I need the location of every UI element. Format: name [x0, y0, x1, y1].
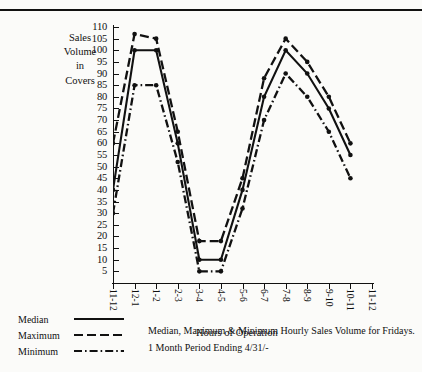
legend-item-median: Median: [18, 311, 126, 327]
data-point-maximum-5: [219, 239, 224, 244]
legend-label-median: Median: [18, 314, 72, 325]
data-point-median-9: [305, 71, 310, 76]
data-point-maximum-2: [154, 36, 159, 41]
data-point-median-10: [327, 106, 332, 111]
legend-swatch-solid-icon: [74, 314, 126, 324]
x-tick-label-2: 1-2: [151, 289, 161, 302]
chart-page: Sales Volume in Covers 51015202530354045…: [0, 0, 422, 372]
data-point-minimum-8: [283, 71, 288, 76]
data-point-median-7: [262, 95, 267, 100]
data-point-minimum-2: [154, 83, 159, 88]
y-tick-label-85: 85: [73, 80, 107, 91]
data-point-median-1: [132, 48, 137, 53]
x-tick-label-4: 3-4: [194, 289, 204, 302]
legend-item-maximum: Maximum: [18, 327, 126, 343]
x-tick-label-10: 9-10: [323, 289, 333, 306]
data-point-maximum-9: [305, 60, 310, 65]
y-tick-label-105: 105: [73, 34, 107, 45]
series-svg: [113, 27, 372, 283]
y-tick-label-50: 50: [73, 162, 107, 173]
data-point-maximum-4: [197, 239, 202, 244]
legend-swatch-dashed-icon: [74, 330, 126, 340]
data-point-median-11: [348, 153, 353, 158]
chart-legend: MedianMaximumMinimum: [18, 311, 126, 359]
x-tick-label-8: 7-8: [280, 289, 290, 302]
data-point-minimum-3: [175, 160, 180, 165]
plot-area: [113, 27, 372, 283]
y-tick-label-35: 35: [73, 197, 107, 208]
data-point-maximum-8: [283, 36, 288, 41]
series-line-maximum: [113, 34, 350, 241]
y-tick-label-55: 55: [73, 150, 107, 161]
y-tick-label-100: 100: [73, 45, 107, 56]
x-tick-label-0: 11-12: [108, 289, 118, 311]
data-point-maximum-1: [132, 32, 137, 37]
data-point-maximum-3: [175, 129, 180, 134]
y-tick-label-10: 10: [73, 255, 107, 266]
data-point-minimum-5: [219, 269, 224, 274]
y-tick-label-30: 30: [73, 208, 107, 219]
x-tick-label-6: 5-6: [237, 289, 247, 302]
chart-caption: Median, Maximum & Minimum Hourly Sales V…: [148, 322, 415, 356]
y-tick-label-15: 15: [73, 243, 107, 254]
y-tick-label-70: 70: [73, 115, 107, 126]
y-tick-label-20: 20: [73, 231, 107, 242]
data-point-median-8: [283, 48, 288, 53]
data-point-maximum-7: [262, 76, 267, 81]
x-tick-label-1: 12-1: [129, 289, 139, 306]
data-point-median-6: [240, 188, 245, 193]
y-tick-label-95: 95: [73, 57, 107, 68]
y-tick-label-40: 40: [73, 185, 107, 196]
data-point-median-5: [219, 257, 224, 262]
data-point-maximum-0: [113, 141, 115, 146]
legend-label-maximum: Maximum: [18, 330, 72, 341]
y-tick-label-65: 65: [73, 127, 107, 138]
x-tick-label-11: 10-11: [345, 289, 355, 311]
top-divider-rule: [0, 9, 422, 11]
y-tick-label-90: 90: [73, 69, 107, 80]
y-tick-label-45: 45: [73, 173, 107, 184]
data-point-minimum-6: [240, 206, 245, 211]
series-line-minimum: [113, 74, 350, 272]
y-tick-label-5: 5: [73, 266, 107, 277]
data-point-maximum-6: [240, 176, 245, 181]
data-point-minimum-7: [262, 118, 267, 123]
y-tick-label-25: 25: [73, 220, 107, 231]
caption-subtitle: 1 Month Period Ending 4/31/-: [148, 339, 415, 356]
legend-swatch-dashdot-icon: [74, 346, 126, 356]
x-tick-label-12: 11-12: [367, 289, 377, 311]
x-tick-label-7: 6-7: [259, 289, 269, 302]
data-point-minimum-9: [305, 95, 310, 100]
data-point-minimum-11: [348, 176, 353, 181]
data-point-maximum-11: [348, 141, 353, 146]
data-point-minimum-4: [197, 269, 202, 274]
y-tick-label-75: 75: [73, 103, 107, 114]
x-tick-label-9: 8-9: [302, 289, 312, 302]
y-tick-label-60: 60: [73, 138, 107, 149]
data-point-minimum-1: [132, 83, 137, 88]
series-line-median: [113, 50, 350, 259]
data-point-maximum-10: [327, 95, 332, 100]
data-point-minimum-0: [113, 211, 115, 216]
caption-title: Median, Maximum & Minimum Hourly Sales V…: [148, 322, 415, 339]
data-point-median-0: [113, 188, 115, 193]
x-tick-label-3: 2-3: [172, 289, 182, 302]
y-tick-label-110: 110: [73, 22, 107, 33]
y-tick-label-80: 80: [73, 92, 107, 103]
x-tick-label-5: 4-5: [215, 289, 225, 302]
data-point-minimum-10: [327, 129, 332, 134]
legend-label-minimum: Minimum: [18, 346, 72, 357]
legend-item-minimum: Minimum: [18, 343, 126, 359]
